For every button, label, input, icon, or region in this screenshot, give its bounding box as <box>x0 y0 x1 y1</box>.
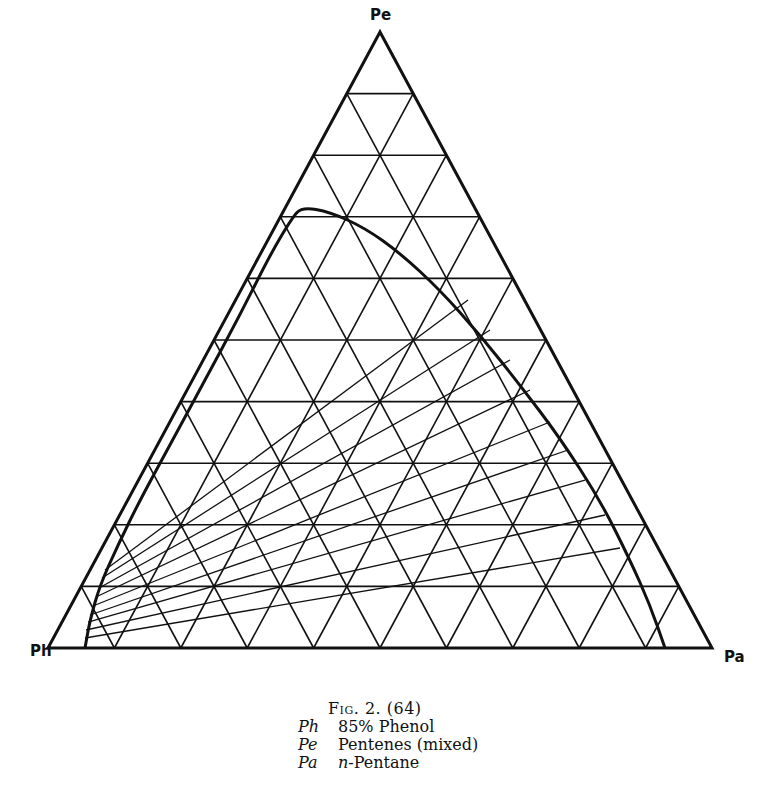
tie-line <box>99 360 510 588</box>
legend-symbol: Pa <box>298 754 338 772</box>
legend-row-pe: Pe Pentenes (mixed) <box>298 736 478 754</box>
tie-line <box>85 548 620 638</box>
legend-symbol: Ph <box>298 718 338 736</box>
legend-description: n-Pentane <box>338 754 419 772</box>
grid-line-right <box>513 463 613 648</box>
ternary-diagram <box>0 0 768 700</box>
vertex-label-ph: Ph <box>30 642 52 660</box>
binodal-curve <box>85 209 665 648</box>
legend-symbol: Pe <box>298 736 338 754</box>
grid-line-right <box>114 94 413 648</box>
vertex-label-pa: Pa <box>724 648 745 666</box>
grid-line-left <box>280 217 512 648</box>
grid-line-left <box>347 94 646 648</box>
tie-line <box>88 480 585 622</box>
tie-line <box>90 450 568 615</box>
figure-caption: Fig. 2. (64) Ph 85% Phenol Pe Pentenes (… <box>298 700 478 772</box>
grid-line-right <box>247 217 479 648</box>
grid-line-left <box>148 463 248 648</box>
tie-line <box>96 390 530 597</box>
legend-row-ph: Ph 85% Phenol <box>298 718 478 736</box>
legend-row-pa: Pa n-Pentane <box>298 754 478 772</box>
tie-line <box>86 515 605 630</box>
legend-description: Pentenes (mixed) <box>338 736 478 754</box>
caption-title: Fig. 2. (64) <box>328 700 478 718</box>
tie-line <box>102 330 490 578</box>
vertex-label-pe: Pe <box>370 6 391 24</box>
legend-description: 85% Phenol <box>338 718 434 736</box>
